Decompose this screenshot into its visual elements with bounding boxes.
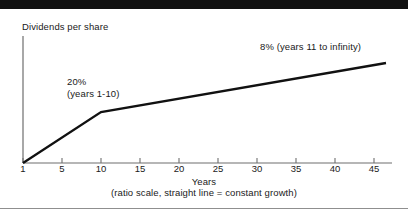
y-axis-label: Dividends per share — [22, 21, 108, 33]
x-tick-label-25: 25 — [213, 163, 224, 174]
annotation-phase2: 8% (years 11 to infinity) — [260, 41, 361, 53]
annotation-phase1-years: (years 1-10) — [67, 88, 119, 100]
x-tick-label-30: 30 — [252, 163, 263, 174]
dividend-growth-figure: Dividends per share 20% (years 1-10) 8% … — [0, 0, 408, 220]
x-tick-label-35: 35 — [291, 163, 302, 174]
x-axis-ticks — [23, 158, 374, 163]
x-tick-label-10: 10 — [96, 163, 107, 174]
x-tick-label-45: 45 — [369, 163, 380, 174]
x-tick-label-5: 5 — [59, 163, 64, 174]
x-tick-label-1: 1 — [20, 163, 25, 174]
x-tick-label-40: 40 — [330, 163, 341, 174]
annotation-phase1-rate: 20% — [67, 76, 86, 88]
x-axis-label: Years — [0, 176, 408, 188]
x-axis-sublabel: (ratio scale, straight line = constant g… — [0, 187, 408, 199]
x-tick-label-20: 20 — [174, 163, 185, 174]
x-tick-label-15: 15 — [135, 163, 146, 174]
